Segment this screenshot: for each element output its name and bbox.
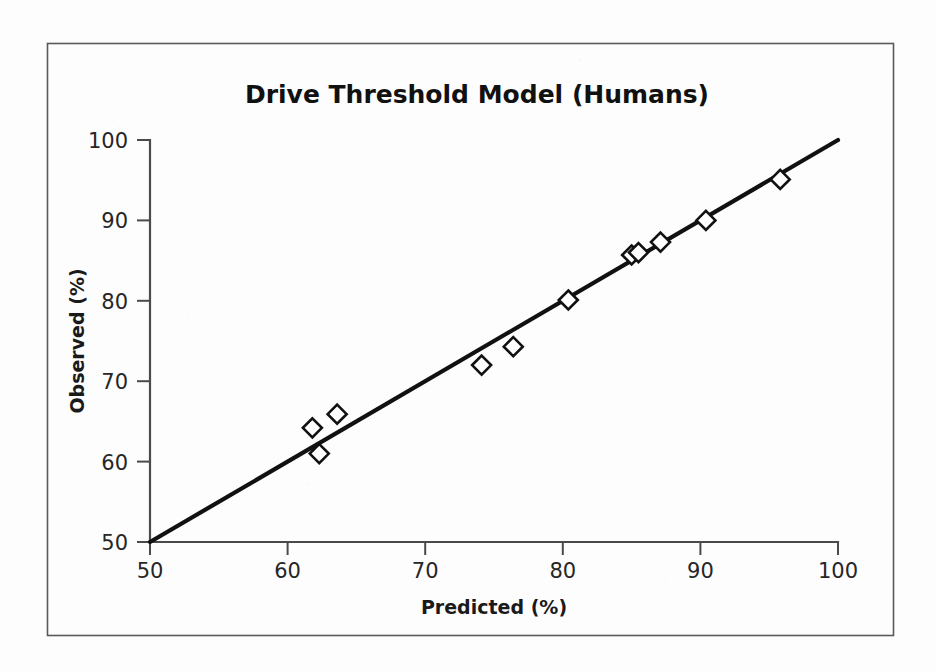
y-tick-label: 60 [101,451,128,475]
y-axis-tick-labels: 100 90 80 70 60 50 [88,129,128,555]
x-tick-label: 70 [412,559,439,583]
figure-page: Drive Threshold Model (Humans) 100 90 80… [0,0,936,672]
data-point-marker [328,405,347,424]
figure-border [48,44,894,636]
x-tick-label: 100 [818,559,858,583]
scatter-plot-figure: Drive Threshold Model (Humans) 100 90 80… [0,0,936,672]
y-tick-label: 50 [101,531,128,555]
chart-title: Drive Threshold Model (Humans) [245,80,709,109]
x-tick-label: 60 [274,559,301,583]
y-axis-ticks [137,140,150,542]
y-tick-label: 70 [101,370,128,394]
identity-reference-line [150,140,838,542]
y-tick-label: 80 [101,290,128,314]
x-tick-label: 50 [137,559,164,583]
data-point-marker [472,356,491,375]
x-axis-title: Predicted (%) [421,596,567,618]
data-point-marker [771,170,790,189]
x-axis-tick-labels: 50 60 70 80 90 100 [137,559,858,583]
y-tick-label: 100 [88,129,128,153]
x-tick-label: 90 [687,559,714,583]
data-point-group [303,170,790,463]
y-axis-title: Observed (%) [66,268,88,413]
data-point-marker [303,418,322,437]
x-axis-ticks [150,542,838,555]
x-tick-label: 80 [549,559,576,583]
y-tick-label: 90 [101,209,128,233]
data-point-marker [504,337,523,356]
